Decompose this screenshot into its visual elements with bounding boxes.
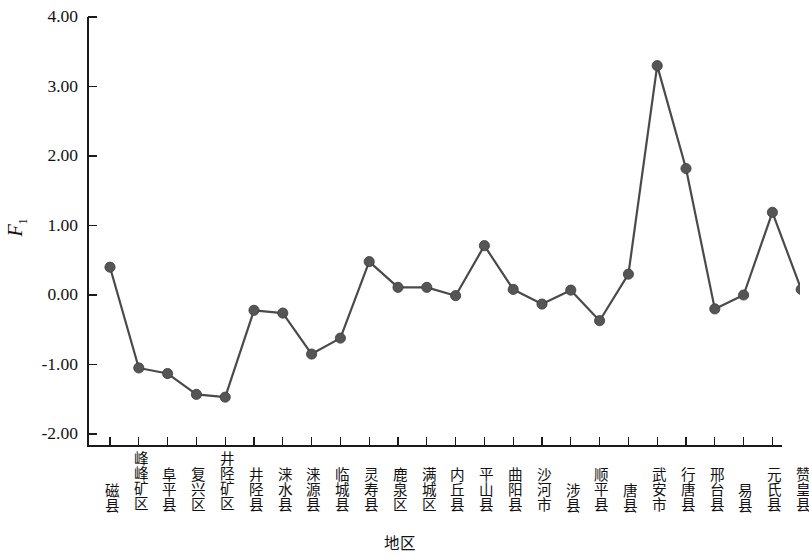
y-axis-tick-label: 3.00 <box>47 76 78 96</box>
data-point-marker <box>652 61 662 71</box>
series-line-f1 <box>110 66 800 398</box>
data-point-marker <box>191 389 201 399</box>
y-axis-tick-label: -1.00 <box>42 354 79 374</box>
data-point-marker <box>278 308 288 318</box>
data-point-marker <box>623 269 633 279</box>
data-point-marker <box>710 304 720 314</box>
x-axis-title: 地区 <box>0 531 800 553</box>
data-point-marker <box>796 284 800 294</box>
y-axis-tick-label: 0.00 <box>47 284 78 304</box>
data-point-marker <box>537 299 547 309</box>
data-point-marker <box>134 363 144 373</box>
data-point-marker <box>595 316 605 326</box>
data-point-marker <box>163 368 173 378</box>
data-point-marker <box>307 349 317 359</box>
y-axis-tick-label: -2.00 <box>42 423 79 443</box>
data-point-marker <box>681 163 691 173</box>
data-point-marker <box>422 282 432 292</box>
data-point-marker <box>364 257 374 267</box>
data-point-marker <box>479 241 489 251</box>
y-axis-tick-label: 1.00 <box>47 215 78 235</box>
data-point-marker <box>739 290 749 300</box>
y-axis-tick-label: 4.00 <box>47 6 78 26</box>
data-point-marker <box>105 262 115 272</box>
data-point-marker <box>393 282 403 292</box>
data-point-marker <box>451 291 461 301</box>
data-point-marker <box>767 207 777 217</box>
data-point-marker <box>249 305 259 315</box>
chart-axes <box>88 17 782 446</box>
data-point-marker <box>220 392 230 402</box>
data-point-marker <box>508 284 518 294</box>
data-point-marker <box>335 333 345 343</box>
y-axis-tick-label: 2.00 <box>47 145 78 165</box>
data-point-marker <box>566 285 576 295</box>
